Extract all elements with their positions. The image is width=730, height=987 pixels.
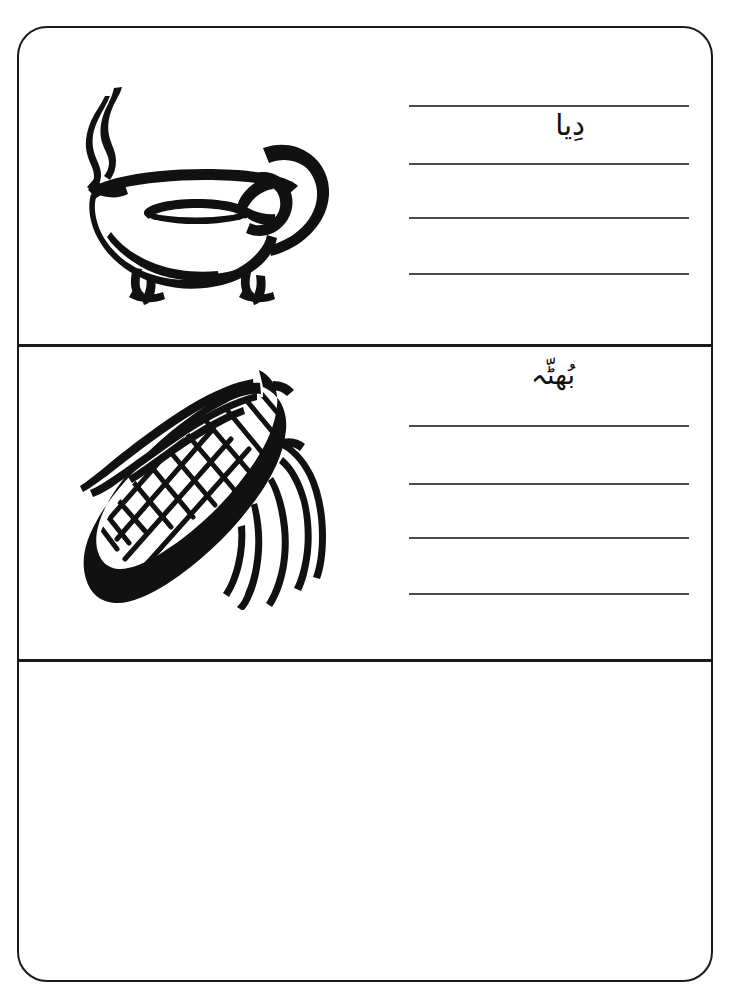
rule-line [409,425,689,427]
rule-line [409,105,689,107]
worksheet-page: دِیا [0,0,730,987]
exercise-panel-1: دِیا [17,27,713,345]
illustration-area-2 [27,347,387,660]
writing-area-2[interactable]: بُھٹّہ [385,347,703,660]
exercise-panel-3 [17,662,713,982]
rule-line [409,537,689,539]
rule-line [409,217,689,219]
oil-lamp-illustration [67,82,347,312]
rule-line [409,273,689,275]
blank-illustration-area[interactable] [17,662,713,982]
rule-line [409,483,689,485]
urdu-word-bhutta: بُھٹّہ [531,361,575,388]
rule-line [409,593,689,595]
exercise-panel-2: بُھٹّہ [17,347,713,660]
rule-line [409,163,689,165]
urdu-word-diya: دِیا [555,111,585,140]
writing-area-1[interactable]: دِیا [385,27,703,345]
illustration-area-1 [27,27,387,345]
corn-cob-illustration [67,355,337,610]
